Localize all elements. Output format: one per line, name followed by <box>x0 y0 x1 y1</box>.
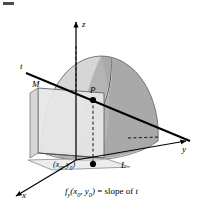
plane-label-M: M <box>32 80 40 89</box>
caption-args-mid: , y <box>80 186 89 196</box>
point-label-P: P <box>90 86 96 95</box>
plane-M-left-edge <box>30 88 38 158</box>
point-P-dot <box>90 97 96 103</box>
base-point-close: ) <box>72 160 75 169</box>
caption-slope-of: slope of <box>105 186 136 196</box>
figure-caption: fy(x0, y0) = slope of t <box>0 186 203 198</box>
base-point-mid: , y <box>62 160 70 169</box>
caption-line: t <box>136 186 139 196</box>
curve-label-L: L <box>121 161 126 170</box>
caption-equals: = <box>95 186 105 196</box>
figure-container: z y x t M P L (x0, y0) fy(x0, y0) = slop… <box>0 0 203 208</box>
axis-label-y: y <box>182 145 186 154</box>
base-point-label: (x0, y0) <box>53 161 75 171</box>
axis-label-z: z <box>82 20 86 29</box>
point-base-dot <box>90 161 96 167</box>
tangent-line-label-t: t <box>20 62 23 71</box>
figure-svg <box>0 0 203 208</box>
